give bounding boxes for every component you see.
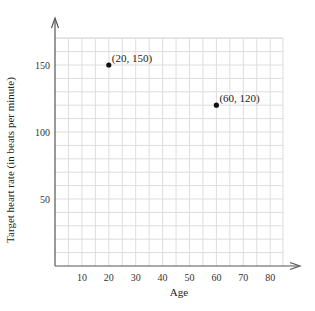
x-tick-label: 50 (185, 272, 195, 283)
x-tick-label: 60 (211, 272, 221, 283)
y-tick-label: 50 (40, 194, 50, 205)
x-tick-label: 80 (265, 272, 275, 283)
data-point-label: (20, 150) (112, 52, 153, 65)
x-axis-label: Age (170, 286, 188, 298)
y-axis-label: Target heart rate (in beats per minute) (4, 77, 17, 243)
x-tick-label: 70 (238, 272, 248, 283)
data-point (106, 62, 111, 67)
data-point-label: (60, 120) (219, 92, 260, 105)
y-tick-label: 150 (35, 60, 50, 71)
data-point (214, 103, 219, 108)
x-tick-label: 20 (104, 272, 114, 283)
x-tick-label: 30 (131, 272, 141, 283)
x-tick-label: 10 (77, 272, 87, 283)
y-tick-label: 100 (35, 127, 50, 138)
x-tick-label: 40 (158, 272, 168, 283)
chart: 102030405060708050100150AgeTarget heart … (0, 0, 315, 311)
